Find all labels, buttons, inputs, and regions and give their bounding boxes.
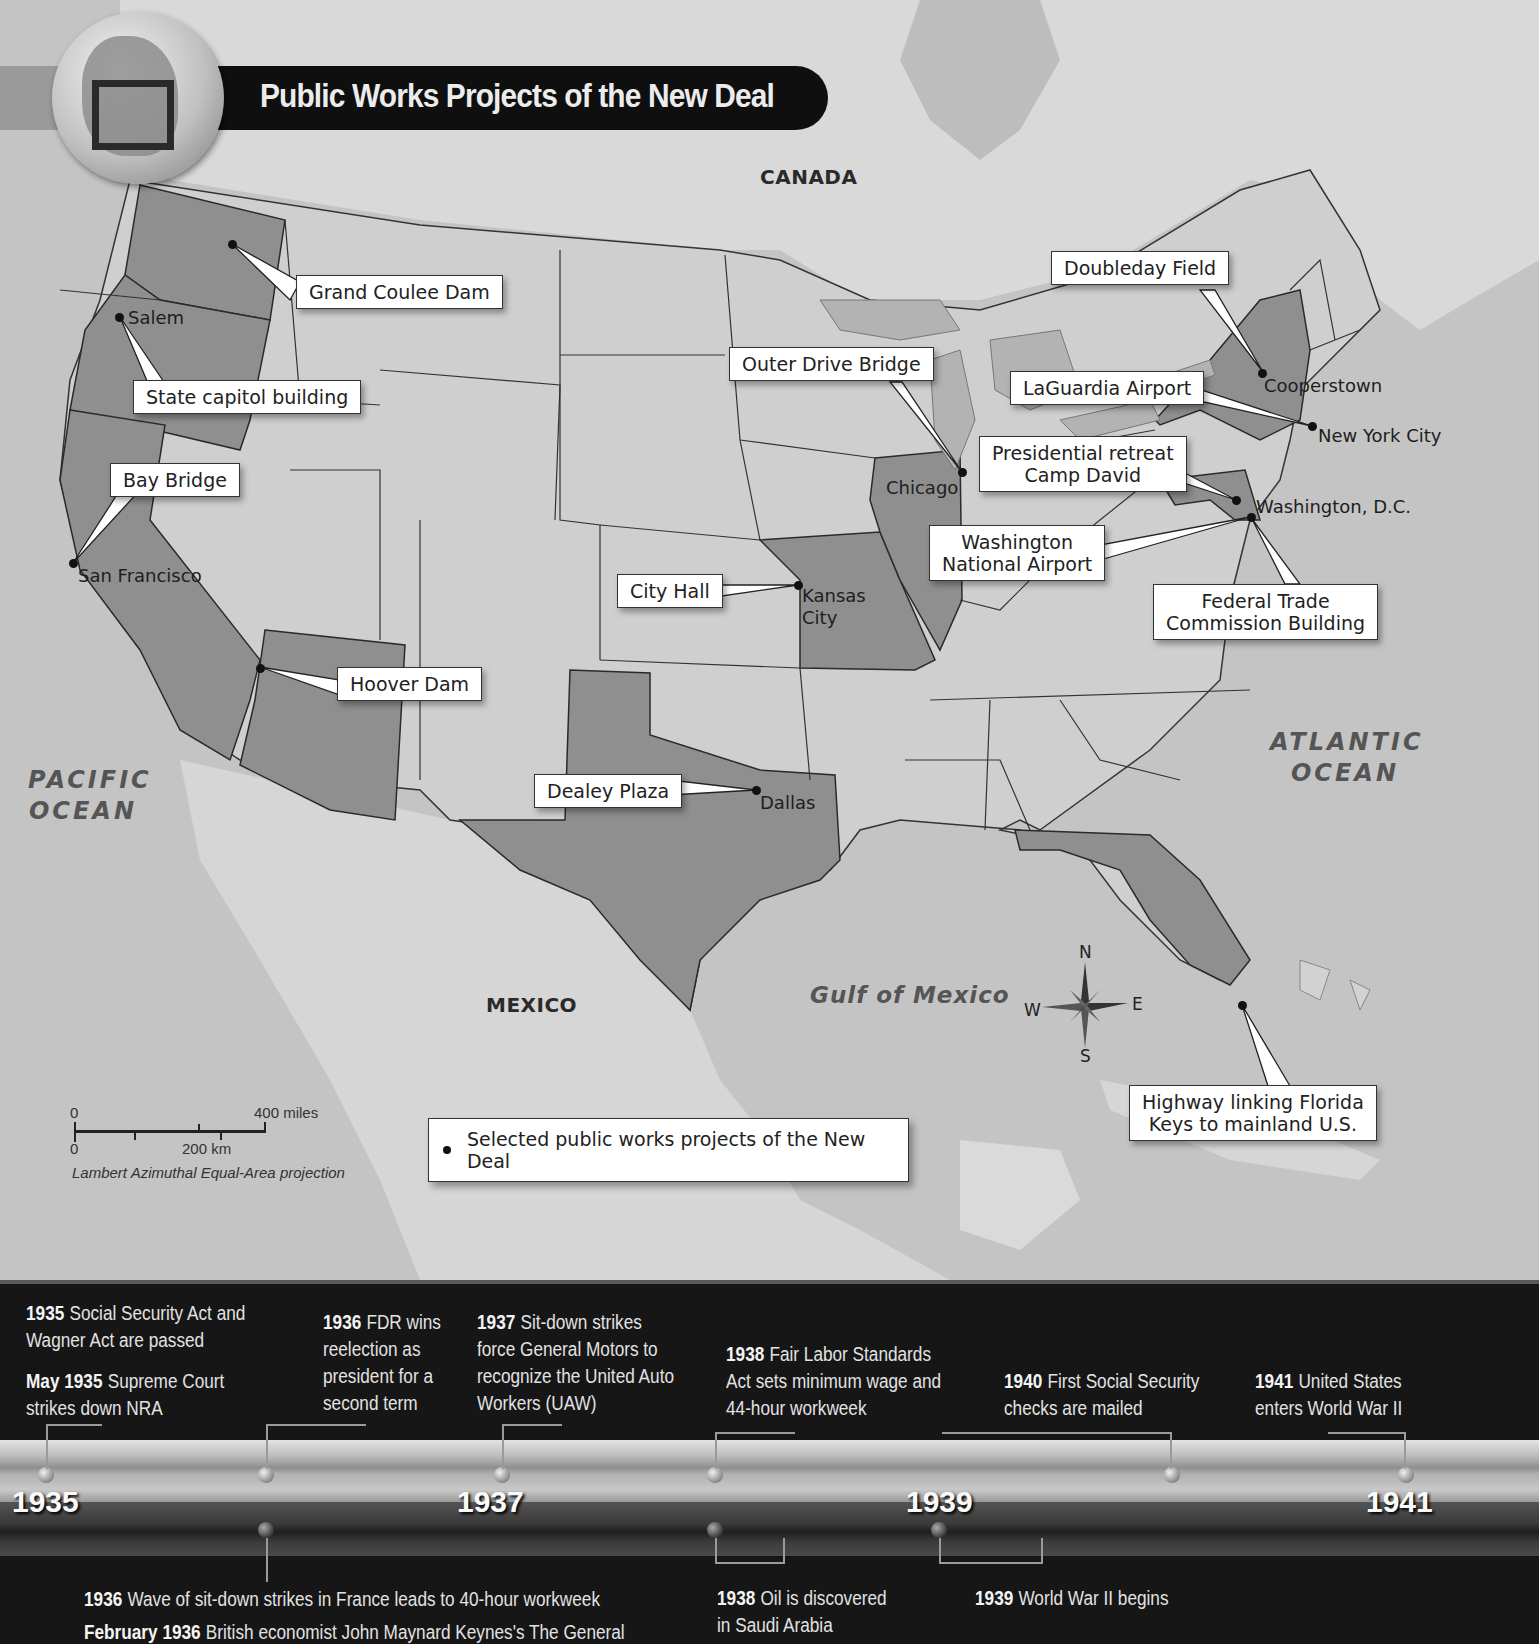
event-date: 1938 <box>717 1587 755 1609</box>
timeline-marker[interactable] <box>494 1467 510 1483</box>
timeline-connector <box>942 1432 1172 1469</box>
timeline-connector <box>715 1432 795 1469</box>
callout-florida-keys-highway[interactable]: Highway linking Florida Keys to mainland… <box>1129 1085 1377 1141</box>
city-label-kansas-city-2: City <box>802 607 837 628</box>
project-marker[interactable] <box>256 664 265 673</box>
event-text: enters World War II <box>1255 1395 1402 1422</box>
project-marker[interactable] <box>1232 496 1241 505</box>
scale-tick <box>198 1124 200 1132</box>
callout-line: Federal Trade <box>1166 590 1365 612</box>
event-date: 1936 <box>84 1588 122 1610</box>
project-marker[interactable] <box>115 313 124 322</box>
callout-washington-national-airport[interactable]: Washington National Airport <box>929 525 1105 581</box>
callout-dealey-plaza[interactable]: Dealey Plaza <box>534 774 682 808</box>
callout-hoover-dam[interactable]: Hoover Dam <box>337 667 482 701</box>
timeline-marker[interactable] <box>258 1467 274 1483</box>
callout-line: Keys to mainland U.S. <box>1142 1113 1364 1135</box>
timeline-marker[interactable] <box>38 1467 54 1483</box>
event-date: 1937 <box>477 1311 515 1333</box>
city-label-washington-dc: Washington, D.C. <box>1256 496 1411 517</box>
scale-zero-miles: 0 <box>70 1104 78 1121</box>
event-text: Act sets minimum wage and <box>726 1368 941 1395</box>
event-date: May 1935 <box>26 1370 103 1392</box>
map: Public Works Projects of the New Deal CA… <box>0 0 1539 1280</box>
timeline-connector <box>1328 1432 1406 1469</box>
timeline-event: 1941United States enters World War II <box>1255 1368 1402 1422</box>
callout-laguardia-airport[interactable]: LaGuardia Airport <box>1010 371 1204 405</box>
city-label-dallas: Dallas <box>760 792 815 813</box>
timeline-event: 1936Wave of sit-down strikes in France l… <box>84 1586 600 1613</box>
ocean-label-line: OCEAN <box>1270 758 1420 789</box>
project-marker[interactable] <box>228 240 237 249</box>
event-text: president for a <box>323 1363 441 1390</box>
timeline-year-1941: 1941 <box>1366 1485 1433 1519</box>
event-text: checks are mailed <box>1004 1395 1199 1422</box>
callout-outer-drive-bridge[interactable]: Outer Drive Bridge <box>729 347 934 381</box>
map-title: Public Works Projects of the New Deal <box>260 76 774 115</box>
timeline-event: 1938Oil is discovered in Saudi Arabia <box>717 1585 887 1639</box>
projection-label: Lambert Azimuthal Equal-Area projection <box>72 1164 345 1181</box>
city-label-salem: Salem <box>128 307 184 328</box>
event-text: second term <box>323 1390 441 1417</box>
callout-federal-trade-commission[interactable]: Federal Trade Commission Building <box>1153 584 1378 640</box>
event-text: in Saudi Arabia <box>717 1612 887 1639</box>
event-text: strikes down NRA <box>26 1395 224 1422</box>
callout-line: National Airport <box>942 553 1092 575</box>
scale-tick <box>134 1132 136 1140</box>
callout-state-capitol-building[interactable]: State capitol building <box>133 380 361 414</box>
event-text: Fair Labor Standards <box>769 1343 931 1365</box>
callout-doubleday-field[interactable]: Doubleday Field <box>1051 251 1229 285</box>
timeline-marker[interactable] <box>707 1522 723 1538</box>
ocean-label-line: ATLANTIC <box>1270 727 1420 758</box>
timeline-event: 1936FDR wins reelection as president for… <box>323 1309 441 1417</box>
callout-grand-coulee-dam[interactable]: Grand Coulee Dam <box>296 275 503 309</box>
timeline-event: 1938Fair Labor Standards Act sets minimu… <box>726 1341 941 1422</box>
ocean-label-line: PACIFIC <box>28 765 138 796</box>
timeline-marker[interactable] <box>1398 1467 1414 1483</box>
timeline-event: 1935Social Security Act and Wagner Act a… <box>26 1300 245 1354</box>
event-date: February 1936 <box>84 1621 201 1643</box>
timeline-connector <box>939 1538 1043 1564</box>
timeline-marker[interactable] <box>931 1522 947 1538</box>
event-date: 1938 <box>726 1343 764 1365</box>
timeline-year-1939: 1939 <box>906 1485 973 1519</box>
compass-e: E <box>1132 994 1143 1014</box>
event-text: reelection as <box>323 1336 441 1363</box>
callout-city-hall[interactable]: City Hall <box>617 574 723 608</box>
project-marker[interactable] <box>1308 422 1317 431</box>
region-label-mexico: MEXICO <box>486 993 577 1017</box>
ocean-label-pacific: PACIFIC OCEAN <box>28 765 138 827</box>
project-marker[interactable] <box>958 468 967 477</box>
timeline-event: February 1936British economist John Mayn… <box>84 1619 625 1644</box>
timeline-marker[interactable] <box>258 1522 274 1538</box>
timeline-event: 1939World War II begins <box>975 1585 1169 1612</box>
callout-camp-david[interactable]: Presidential retreat Camp David <box>979 436 1187 492</box>
compass-n: N <box>1079 942 1092 962</box>
gulf-label: Gulf of Mexico <box>810 982 1010 1008</box>
compass-rose-icon: N S W E <box>1030 950 1140 1060</box>
city-label-kansas-city-1: Kansas <box>802 585 866 606</box>
timeline-marker[interactable] <box>1164 1467 1180 1483</box>
timeline-year-1935: 1935 <box>12 1485 79 1519</box>
event-text: First Social Security <box>1047 1370 1199 1392</box>
timeline-year-1937: 1937 <box>457 1485 524 1519</box>
timeline-connector <box>715 1538 785 1564</box>
event-text: Wave of sit-down strikes in France leads… <box>127 1588 600 1610</box>
callout-bay-bridge[interactable]: Bay Bridge <box>110 463 240 497</box>
scale-km-label: 200 km <box>182 1140 231 1157</box>
timeline-event: 1937Sit-down strikes force General Motor… <box>477 1309 674 1417</box>
callout-line: Washington <box>942 531 1092 553</box>
timeline-connector <box>502 1424 562 1469</box>
project-marker[interactable] <box>1238 1001 1247 1010</box>
event-text: FDR wins <box>366 1311 441 1333</box>
locator-frame <box>92 80 174 150</box>
event-date: 1941 <box>1255 1370 1293 1392</box>
project-marker[interactable] <box>1247 513 1256 522</box>
timeline-top-edge <box>0 1280 1539 1284</box>
callout-line: Commission Building <box>1166 612 1365 634</box>
project-marker[interactable] <box>69 559 78 568</box>
scale-bar: 0 400 miles 0 200 km Lambert Azimuthal E… <box>66 1104 366 1184</box>
scale-tick <box>264 1122 266 1133</box>
city-label-san-francisco: San Francisco <box>78 565 202 586</box>
timeline-marker[interactable] <box>707 1467 723 1483</box>
